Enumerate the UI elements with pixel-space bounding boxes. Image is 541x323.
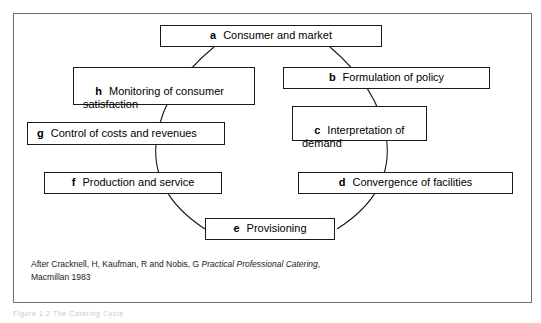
node-f-text: fProduction and service — [52, 176, 214, 190]
caption-line-1-lead: After Cracknell, H, Kaufman, R and Nobis… — [31, 259, 202, 269]
node-f-tag: f — [72, 176, 76, 188]
node-h[interactable]: hMonitoring of consumer satisfaction — [73, 67, 255, 105]
caption-book-title: Practical Professional Catering — [202, 259, 318, 269]
node-e-text: eProvisioning — [213, 222, 327, 236]
caption-line-1: After Cracknell, H, Kaufman, R and Nobis… — [31, 258, 451, 271]
node-b-text: bFormulation of policy — [291, 71, 482, 85]
node-g-label: Control of costs and revenues — [51, 127, 197, 139]
node-f-label: Production and service — [82, 176, 194, 188]
node-b-label: Formulation of policy — [343, 71, 445, 83]
node-c[interactable]: cInterpretation of demand — [292, 106, 427, 141]
node-a[interactable]: aConsumer and market — [160, 25, 382, 47]
node-g-tag: g — [37, 127, 44, 139]
node-e-label: Provisioning — [247, 222, 307, 234]
node-a-tag: a — [210, 29, 216, 41]
node-a-text: aConsumer and market — [168, 29, 374, 43]
figure-page: aConsumer and market hMonitoring of cons… — [0, 0, 541, 323]
page-undertext: Figure 1.2 The Catering Cycle — [13, 310, 124, 317]
node-d-tag: d — [339, 176, 346, 188]
node-e-tag: e — [233, 222, 239, 234]
node-e[interactable]: eProvisioning — [205, 218, 335, 240]
caption-line-1-tail: , — [318, 259, 320, 269]
node-a-label: Consumer and market — [223, 29, 332, 41]
node-b-tag: b — [329, 71, 336, 83]
source-caption: After Cracknell, H, Kaufman, R and Nobis… — [31, 258, 451, 284]
node-g[interactable]: gControl of costs and revenues — [27, 122, 225, 145]
node-f[interactable]: fProduction and service — [44, 172, 222, 194]
node-b[interactable]: bFormulation of policy — [283, 67, 490, 89]
node-g-text: gControl of costs and revenues — [37, 127, 217, 141]
node-h-tag: h — [95, 85, 102, 97]
node-c-tag: c — [314, 124, 320, 136]
node-d[interactable]: dConvergence of facilities — [298, 172, 513, 194]
node-d-label: Convergence of facilities — [352, 176, 472, 188]
node-d-text: dConvergence of facilities — [306, 176, 505, 190]
caption-line-2: Macmillan 1983 — [31, 271, 451, 284]
